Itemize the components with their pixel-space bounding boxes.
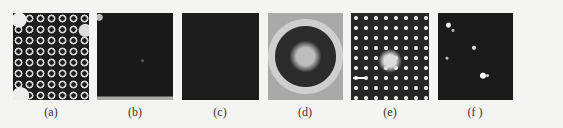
figure-label-a: (a) <box>11 105 91 120</box>
figure-panel-a <box>13 13 89 100</box>
figure-label-b: (b) <box>95 105 175 120</box>
figure-panel-d <box>268 13 343 100</box>
figure-panel-c <box>182 13 259 100</box>
figure-label-c: (c) <box>180 105 260 120</box>
figure-label-e: (e) <box>350 105 430 120</box>
figure-label-f: (f ) <box>435 105 515 120</box>
scale-bar <box>353 77 365 79</box>
figure-panel-b <box>97 13 173 100</box>
figure-panel-f <box>438 13 513 100</box>
figure-panel-e <box>351 13 429 100</box>
figure-label-d: (d) <box>265 105 345 120</box>
